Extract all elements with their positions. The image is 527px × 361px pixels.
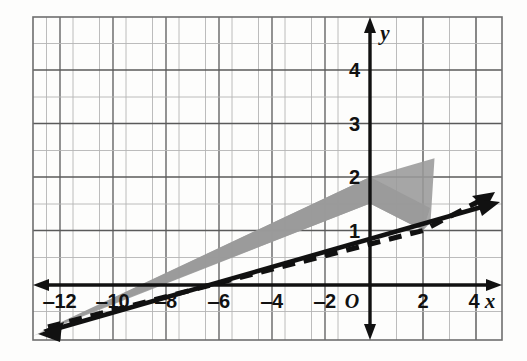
x-tick-label--6: ‒6	[207, 290, 230, 312]
y-tick-label-2: 2	[349, 166, 360, 188]
x-tick-label--2: ‒2	[313, 290, 336, 312]
x-tick-label-4: 4	[468, 290, 480, 312]
figure-root: ‒12 ‒10 ‒8 ‒6 ‒4 ‒2 2 4 1 2 3 4 O x y	[0, 0, 527, 361]
x-tick-label--8: ‒8	[154, 290, 177, 312]
x-axis-label: x	[484, 289, 496, 313]
y-tick-label-1: 1	[349, 220, 360, 242]
x-tick-label--12: ‒12	[42, 290, 76, 312]
x-tick-label--10: ‒10	[95, 290, 129, 312]
origin-label: O	[345, 290, 359, 312]
x-tick-label--4: ‒4	[260, 290, 284, 312]
y-tick-label-4: 4	[349, 59, 361, 81]
y-tick-label-3: 3	[349, 113, 360, 135]
x-tick-label-2: 2	[417, 290, 428, 312]
coordinate-plane-graph: ‒12 ‒10 ‒8 ‒6 ‒4 ‒2 2 4 1 2 3 4 O x y	[0, 0, 527, 361]
